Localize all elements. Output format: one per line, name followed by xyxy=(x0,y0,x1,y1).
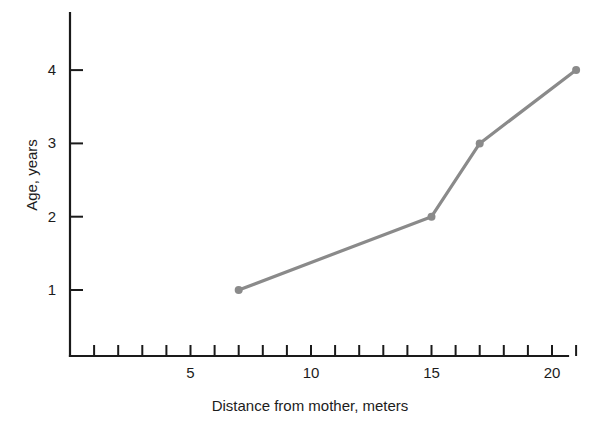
y-tick-label: 2 xyxy=(48,208,56,225)
chart-figure: 5101520 1234 Distance from mother, meter… xyxy=(0,0,590,428)
data-point-marker xyxy=(428,213,436,221)
y-tick-label: 3 xyxy=(48,134,56,151)
data-point-marker xyxy=(476,139,484,147)
y-axis-title: Age, years xyxy=(23,139,40,211)
data-point-marker xyxy=(235,286,243,294)
y-axis-ticks xyxy=(70,70,83,290)
x-tick-label: 5 xyxy=(186,364,194,381)
x-axis-ticks xyxy=(94,345,576,356)
data-series-line xyxy=(239,70,576,290)
data-point-marker xyxy=(572,66,580,74)
x-tick-label: 20 xyxy=(544,364,561,381)
x-axis-tick-labels: 5101520 xyxy=(186,364,560,381)
y-tick-label: 1 xyxy=(48,281,56,298)
data-point-markers xyxy=(235,66,580,294)
line-chart: 5101520 1234 Distance from mother, meter… xyxy=(0,0,590,428)
x-tick-label: 10 xyxy=(303,364,320,381)
y-tick-label: 4 xyxy=(48,61,56,78)
x-tick-label: 15 xyxy=(423,364,440,381)
x-axis-title: Distance from mother, meters xyxy=(212,397,409,414)
y-axis-tick-labels: 1234 xyxy=(48,61,56,298)
